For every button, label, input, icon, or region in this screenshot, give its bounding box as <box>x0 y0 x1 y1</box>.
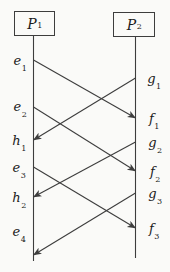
event-label-e1: e1 <box>14 54 27 67</box>
event-label-g2: g2 <box>148 136 161 149</box>
space-time-diagram: P1P2e1e2h1e3h2e4g1f1g2f2g3f3 <box>0 0 170 272</box>
message-arrow-e2-to-f2 <box>34 107 136 171</box>
event-label-h1: h1 <box>12 134 25 147</box>
event-label-g1: g1 <box>147 72 160 85</box>
process-box-P1: P1 <box>14 11 55 36</box>
message-arrow-e3-to-f3 <box>34 167 136 228</box>
event-label-e4: e4 <box>13 225 26 238</box>
event-label-f2: f2 <box>150 165 160 178</box>
event-label-f1: f1 <box>149 112 159 125</box>
message-arrow-g2-to-h2 <box>34 142 136 197</box>
event-label-f3: f3 <box>149 222 159 235</box>
event-label-e2: e2 <box>14 100 27 113</box>
event-label-g3: g3 <box>148 187 161 200</box>
message-arrow-g3-to-p1-line-end <box>34 193 136 255</box>
process-box-P2: P2 <box>113 12 155 37</box>
event-label-e3: e3 <box>13 161 26 174</box>
event-label-h2: h2 <box>12 191 25 204</box>
